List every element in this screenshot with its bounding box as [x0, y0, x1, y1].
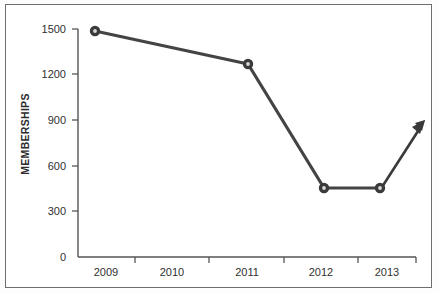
x-tick-label-2013: 2013 — [362, 266, 412, 278]
y-tick-label-0: 0 — [32, 251, 66, 263]
y-tick-marks — [72, 29, 78, 211]
x-tick-marks — [135, 257, 416, 263]
y-tick-label-1200: 1200 — [32, 68, 66, 80]
y-tick-label-600: 600 — [32, 160, 66, 172]
chart-figure: MEMBERSHIPS 1500 1200 900 600 300 0 2009… — [0, 0, 439, 294]
projection-arrow — [382, 120, 425, 187]
x-tick-label-2012: 2012 — [296, 266, 346, 278]
y-axis-title: MEMBERSHIPS — [19, 79, 31, 189]
y-tick-label-900: 900 — [32, 114, 66, 126]
data-point-markers — [90, 26, 385, 193]
x-tick-label-2010: 2010 — [147, 266, 197, 278]
line-chart-svg — [0, 0, 439, 294]
x-tick-label-2011: 2011 — [222, 266, 272, 278]
x-tick-label-2009: 2009 — [81, 266, 131, 278]
plot-area — [0, 0, 439, 294]
y-tick-label-1500: 1500 — [32, 23, 66, 35]
y-tick-label-300: 300 — [32, 205, 66, 217]
data-line-memberships — [95, 31, 380, 188]
